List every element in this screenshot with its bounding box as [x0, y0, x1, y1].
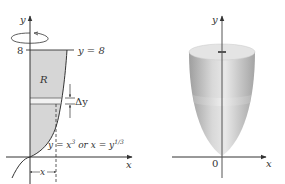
strip-delta-y: [30, 98, 61, 104]
origin-label: 0: [212, 158, 218, 169]
line-y8-label: y = 8: [77, 45, 105, 56]
delta-y-label: Δy: [75, 96, 88, 107]
left-figure: y 8 y = 8 R Δy y = x3 or x = y1/3 x x: [6, 14, 132, 184]
figure-canvas: y 8 y = 8 R Δy y = x3 or x = y1/3 x x y …: [0, 0, 285, 184]
region-r-label: R: [39, 74, 48, 85]
right-y-axis-label: y: [211, 14, 218, 25]
left-y-axis-label: y: [19, 14, 26, 25]
right-x-axis-label: x: [266, 158, 272, 169]
left-x-axis-label: x: [126, 159, 132, 170]
right-figure: y 0 x: [172, 14, 272, 178]
tick-8-label: 8: [17, 45, 23, 56]
x-bracket-label: x: [40, 167, 45, 177]
curve-equation-label: y = x3 or x = y1/3: [47, 138, 124, 150]
